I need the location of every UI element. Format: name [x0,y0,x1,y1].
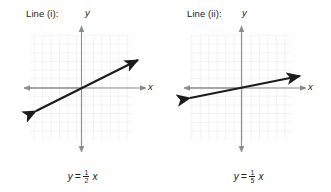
line-i-graph [0,0,165,160]
line-ii-equation-denominator: 5 [249,176,255,184]
line-i-equation: y = 1 2 x [0,168,165,184]
line-ii-equation: y = 1 5 x [166,168,331,184]
line-i-equation-numerator: 1 [83,169,89,176]
line-i-equation-equals: = [75,171,81,182]
line-ii-panel: Line (ii): y x y = 1 [166,0,331,192]
line-i-equation-fraction: 1 2 [83,169,89,185]
line-i-equation-denominator: 2 [83,176,89,184]
line-i-panel: Line (i): y x y = 1 [0,0,165,192]
line-i-equation-variable: x [92,171,97,182]
line-ii-graph [166,0,331,160]
line-i-equation-lhs: y [68,171,73,182]
line-ii-equation-equals: = [241,171,247,182]
line-ii-equation-lhs: y [234,171,239,182]
line-i-grid [30,35,131,139]
line-ii-equation-variable: x [258,171,263,182]
line-ii-equation-numerator: 1 [249,169,255,176]
line-ii-equation-fraction: 1 5 [249,169,255,185]
